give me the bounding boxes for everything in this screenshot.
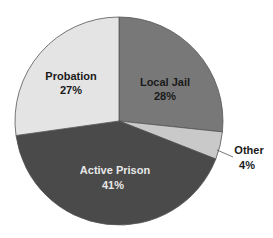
label-probation-name: Probation (45, 70, 97, 82)
label-probation-pct: 27% (60, 84, 82, 96)
pie-chart: Probation 27% Local Jail 28% Other 4% Ac… (0, 0, 273, 238)
other-leader-line (217, 150, 233, 157)
label-other-name: Other (234, 144, 264, 156)
label-active-prison-name: Active Prison (80, 164, 151, 176)
label-other-pct: 4% (239, 159, 255, 171)
slice-local-jail[interactable] (119, 17, 223, 132)
label-active-prison-pct: 41% (102, 179, 124, 191)
label-local-jail-name: Local Jail (140, 76, 190, 88)
label-local-jail-pct: 28% (154, 90, 176, 102)
